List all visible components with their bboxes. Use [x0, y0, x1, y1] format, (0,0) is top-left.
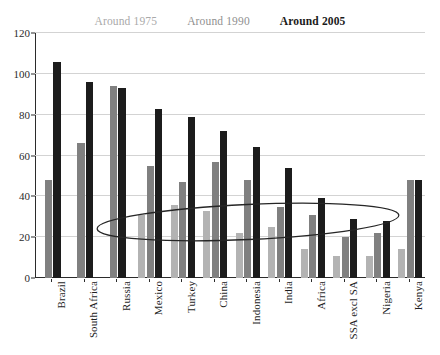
bar	[155, 109, 162, 278]
y-axis-labels: 020406080100120	[0, 33, 30, 278]
bar	[277, 207, 284, 278]
x-tick-mark	[51, 279, 52, 282]
bar-group	[133, 33, 166, 278]
bar	[220, 131, 227, 278]
bar	[253, 147, 260, 278]
bar	[171, 205, 178, 279]
x-tick-mark	[311, 279, 312, 282]
bar	[301, 249, 308, 278]
x-tick-mark	[279, 279, 280, 282]
bar-group	[198, 33, 231, 278]
bar-group	[165, 33, 198, 278]
bar	[398, 249, 405, 278]
legend-item-1975: Around 1975	[94, 14, 157, 28]
x-tick-mark	[84, 279, 85, 282]
bar-group	[328, 33, 361, 278]
x-tick-label: Indonesia	[251, 281, 262, 325]
bar	[203, 211, 210, 278]
x-tick-mark	[214, 279, 215, 282]
bar	[138, 215, 145, 278]
x-tick-label: Africa	[316, 281, 327, 310]
bar-chart: Around 1975 Around 1990 Around 2005 0204…	[0, 0, 440, 355]
x-tick-label: China	[218, 281, 229, 308]
chart-legend: Around 1975 Around 1990 Around 2005	[0, 13, 440, 29]
bar-group	[68, 33, 101, 278]
legend-item-1990: Around 1990	[187, 14, 250, 28]
x-tick-label: Mexico	[153, 281, 164, 315]
x-axis-labels: BrazilSouth AfricaRussiaMexicoTurkeyChin…	[35, 279, 425, 355]
bars-layer	[35, 33, 425, 278]
x-tick-label: Russia	[121, 281, 132, 311]
bar-group	[360, 33, 393, 278]
legend-item-2005: Around 2005	[280, 14, 346, 28]
bar	[374, 233, 381, 278]
bar	[77, 143, 84, 278]
bar	[415, 180, 422, 278]
y-tick-label: 80	[0, 109, 30, 120]
bar-group	[295, 33, 328, 278]
x-tick-label: India	[283, 281, 294, 304]
bar	[318, 198, 325, 278]
bar	[53, 62, 60, 278]
bar-group	[230, 33, 263, 278]
bar-group	[35, 33, 68, 278]
bar	[407, 180, 414, 278]
bar-group	[263, 33, 296, 278]
bar	[333, 256, 340, 278]
bar	[268, 227, 275, 278]
y-tick-label: 120	[0, 28, 30, 39]
y-tick-label: 60	[0, 150, 30, 161]
bar-group	[393, 33, 426, 278]
x-tick-mark	[376, 279, 377, 282]
bar	[45, 180, 52, 278]
bar	[309, 215, 316, 278]
bar	[86, 82, 93, 278]
bar	[383, 221, 390, 278]
bar	[350, 219, 357, 278]
x-tick-label: Turkey	[186, 281, 197, 313]
x-tick-mark	[116, 279, 117, 282]
bar	[179, 182, 186, 278]
bar	[118, 88, 125, 278]
bar	[212, 162, 219, 278]
y-tick-label: 40	[0, 191, 30, 202]
bar	[366, 256, 373, 278]
bar	[285, 168, 292, 278]
x-tick-mark	[344, 279, 345, 282]
x-tick-label: Kenya	[413, 281, 424, 310]
bar	[110, 86, 117, 278]
x-tick-label: Nigeria	[381, 281, 392, 315]
x-tick-mark	[181, 279, 182, 282]
bar	[147, 166, 154, 278]
y-tick-label: 0	[0, 273, 30, 284]
bar	[244, 180, 251, 278]
x-tick-label: SSA excl SA	[348, 281, 359, 340]
x-tick-mark	[246, 279, 247, 282]
plot-area	[35, 33, 425, 278]
y-tick-label: 100	[0, 68, 30, 79]
x-tick-mark	[149, 279, 150, 282]
bar-group	[100, 33, 133, 278]
bar	[188, 117, 195, 278]
x-tick-label: South Africa	[88, 281, 99, 338]
x-tick-mark	[409, 279, 410, 282]
y-tick-label: 20	[0, 232, 30, 243]
x-tick-label: Brazil	[56, 281, 67, 308]
bar	[342, 237, 349, 278]
bar	[236, 233, 243, 278]
